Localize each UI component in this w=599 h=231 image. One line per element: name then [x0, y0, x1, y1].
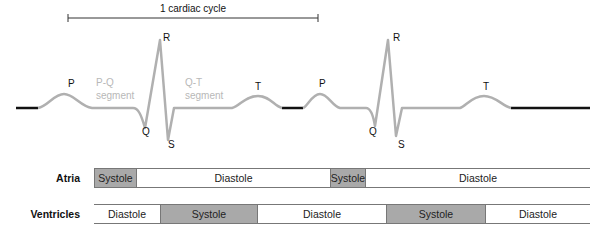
t-wave-label-1: T	[255, 81, 261, 92]
ecg-trace-cycle-1	[38, 40, 282, 140]
atria-diastole-cell: Diastole	[137, 169, 330, 187]
r-wave-label-2: R	[393, 32, 400, 43]
s-wave-label-1: S	[168, 139, 175, 150]
cardiac-cycle-bracket	[68, 14, 318, 22]
atria-row-label: Atria	[0, 172, 80, 184]
atria-diastole-cell: Diastole	[366, 169, 590, 187]
atria-timeline: SystoleDiastoleSystoleDiastole	[94, 168, 590, 188]
ventricles-systole-cell: Systole	[160, 205, 258, 223]
ventricles-timeline: DiastoleSystoleDiastoleSystoleDiastole	[94, 204, 590, 224]
s-wave-label-2: S	[398, 139, 405, 150]
pq-segment-label-line1: P-Q	[96, 77, 114, 88]
ventricles-diastole-cell: Diastole	[258, 205, 386, 223]
atria-systole-cell: Systole	[94, 169, 137, 187]
t-wave-label-2: T	[483, 81, 489, 92]
q-wave-label-1: Q	[142, 126, 150, 137]
ventricles-diastole-cell: Diastole	[486, 205, 590, 223]
ventricles-systole-cell: Systole	[386, 205, 486, 223]
ventricles-row-label: Ventricles	[0, 208, 80, 220]
qt-segment-label-line2: segment	[185, 90, 224, 101]
p-wave-label-2: P	[319, 78, 326, 89]
ventricles-diastole-cell: Diastole	[94, 205, 160, 223]
pq-segment-label-line2: segment	[96, 90, 135, 101]
ecg-trace-cycle-2	[303, 40, 511, 136]
ecg-diagram: 1 cardiac cycle P R Q S T P R Q S T P-Q …	[0, 0, 599, 231]
atria-systole-cell: Systole	[330, 169, 366, 187]
qt-segment-label-line1: Q-T	[185, 77, 202, 88]
r-wave-label-1: R	[163, 32, 170, 43]
p-wave-label-1: P	[68, 78, 75, 89]
q-wave-label-2: Q	[369, 126, 377, 137]
cardiac-cycle-label: 1 cardiac cycle	[160, 3, 227, 14]
